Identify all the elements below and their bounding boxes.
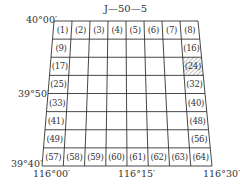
cell-label: (59)	[85, 152, 105, 162]
cell-label: (9)	[51, 43, 71, 53]
cell-label: (2)	[71, 25, 91, 35]
cell-label: (41)	[46, 116, 66, 126]
cell-label: (32)	[184, 79, 204, 89]
cell-label: (64)	[191, 152, 211, 162]
cell-label: (48)	[188, 116, 208, 126]
cell-label: (49)	[45, 134, 65, 144]
cell-label: (40)	[186, 98, 206, 108]
cell-label: (58)	[64, 152, 84, 162]
cell-label: (8)	[180, 25, 200, 35]
sheet-title: J—50—5	[104, 3, 147, 14]
cell-label: (24)	[183, 61, 203, 71]
cell-label: (17)	[50, 61, 70, 71]
cell-label: (57)	[43, 152, 63, 162]
latitude-label-top: 40°00′	[26, 15, 57, 25]
longitude-label-left: 116°00′	[33, 169, 70, 179]
cell-label: (61)	[127, 152, 147, 162]
cell-label: (63)	[170, 152, 190, 162]
map-sheet-index-diagram: J—50—5 40°00′ 39°50′ 39°40′ 116°00′ 116°…	[0, 0, 249, 189]
cell-label: (16)	[181, 43, 201, 53]
cell-label: (1)	[52, 25, 72, 35]
cell-label: (33)	[47, 98, 67, 108]
cell-label: (25)	[48, 79, 68, 89]
cell-label: (3)	[89, 25, 109, 35]
latitude-label-mid: 39°50′	[18, 89, 49, 99]
cell-label: (56)	[189, 134, 209, 144]
longitude-label-middle: 116°15′	[118, 169, 155, 179]
longitude-label-right: 116°30′	[203, 169, 240, 179]
cell-label: (7)	[162, 25, 182, 35]
cell-label: (62)	[149, 152, 169, 162]
cell-label: (60)	[106, 152, 126, 162]
cell-label: (4)	[107, 25, 127, 35]
cell-label: (6)	[143, 25, 163, 35]
cell-label: (5)	[125, 25, 145, 35]
